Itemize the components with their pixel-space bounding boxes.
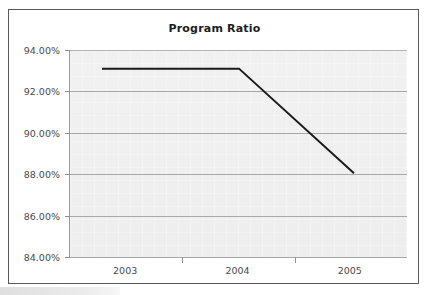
x-axis-tick [182, 257, 183, 263]
y-axis-label: 84.00% [6, 252, 60, 263]
chart-title: Program Ratio [9, 22, 420, 35]
x-axis-label: 2005 [338, 265, 362, 276]
gridline [70, 257, 407, 258]
y-axis-label: 88.00% [6, 169, 60, 180]
y-axis-label: 86.00% [6, 210, 60, 221]
y-axis-label: 90.00% [6, 127, 60, 138]
y-axis-label: 92.00% [6, 86, 60, 97]
scan-artifact-band [0, 287, 120, 295]
x-axis-tick [295, 257, 296, 263]
y-axis-tick [65, 257, 70, 258]
x-axis-label: 2003 [113, 265, 137, 276]
y-axis-label: 94.00% [6, 45, 60, 56]
series-line-program-ratio [70, 50, 407, 257]
plot-area [69, 50, 407, 258]
x-axis-label: 2004 [225, 265, 249, 276]
chart-frame: Program Ratio 94.00%92.00%90.00%88.00%86… [8, 9, 419, 284]
